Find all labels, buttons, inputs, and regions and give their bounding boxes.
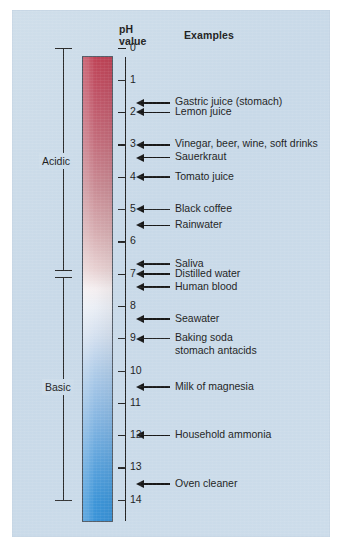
example-row: Black coffee <box>136 202 232 215</box>
example-row: Human blood <box>136 280 237 293</box>
axis-tick-5 <box>118 209 126 210</box>
axis-tick-8 <box>118 306 126 307</box>
basic-bracket-bottom-cap <box>55 500 72 501</box>
example-label: Household ammonia <box>175 428 271 441</box>
axis-tick-11 <box>118 403 126 404</box>
left-arrow-icon <box>136 382 170 393</box>
example-row: Milk of magnesia <box>136 380 254 393</box>
axis-tick-label-7: 7 <box>130 268 136 279</box>
axis-tick-6 <box>118 241 126 242</box>
axis-tick-label-6: 6 <box>130 235 136 246</box>
example-label: Seawater <box>175 312 219 325</box>
example-row: Household ammonia <box>136 428 271 441</box>
axis-tick-label-9: 9 <box>130 332 136 343</box>
left-arrow-icon <box>136 139 170 150</box>
left-arrow-icon <box>136 333 170 344</box>
figure-panel: pH value Examples 01234567891011121314 A… <box>12 10 330 537</box>
example-row: Distilled water <box>136 267 240 280</box>
axis-tick-9 <box>118 338 126 339</box>
axis-tick-13 <box>118 467 126 468</box>
example-label: Rainwater <box>175 218 222 231</box>
axis-tick-label-14: 14 <box>130 494 142 505</box>
left-arrow-icon <box>136 314 170 325</box>
axis-tick-1 <box>118 80 126 81</box>
ph-gradient-bar <box>82 56 113 522</box>
example-label: Black coffee <box>175 202 232 215</box>
left-arrow-icon <box>136 172 170 183</box>
axis-tick-3 <box>118 144 126 145</box>
axis-tick-label-13: 13 <box>130 461 142 472</box>
example-label: Oven cleaner <box>175 477 237 490</box>
left-arrow-icon <box>136 204 170 215</box>
examples-header: Examples <box>184 29 234 41</box>
axis-tick-2 <box>118 112 126 113</box>
acidic-label: Acidic <box>39 153 73 169</box>
bracket-mid-cap-1 <box>55 270 72 271</box>
example-label: Sauerkraut <box>175 150 226 163</box>
example-label: Lemon juice <box>175 105 232 118</box>
acidic-bracket-top-cap <box>55 48 72 49</box>
axis-tick-label-0: 0 <box>130 42 136 53</box>
axis-tick-label-5: 5 <box>130 203 136 214</box>
left-arrow-icon <box>136 152 170 163</box>
axis-tick-label-2: 2 <box>130 106 136 117</box>
ph-axis-line <box>125 57 126 521</box>
example-row: Baking soda stomach antacids <box>136 331 257 356</box>
left-arrow-icon <box>136 107 170 118</box>
axis-tick-7 <box>118 274 126 275</box>
example-row: Sauerkraut <box>136 150 226 163</box>
example-label: Human blood <box>175 280 237 293</box>
basic-label: Basic <box>42 379 74 395</box>
axis-tick-10 <box>118 371 126 372</box>
left-arrow-icon <box>136 430 170 441</box>
example-row: Seawater <box>136 312 219 325</box>
axis-tick-4 <box>118 177 126 178</box>
example-label: Milk of magnesia <box>175 380 254 393</box>
example-row: Rainwater <box>136 218 222 231</box>
axis-tick-14 <box>118 500 126 501</box>
axis-tick-label-1: 1 <box>130 74 136 85</box>
example-row: Vinegar, beer, wine, soft drinks <box>136 137 318 150</box>
example-label: Tomato juice <box>175 170 234 183</box>
example-label: Distilled water <box>175 267 240 280</box>
bar-gloss-overlay <box>83 57 112 521</box>
example-label: Baking soda stomach antacids <box>175 331 257 356</box>
example-row: Tomato juice <box>136 170 234 183</box>
example-row: Lemon juice <box>136 105 232 118</box>
left-arrow-icon <box>136 220 170 231</box>
example-row: Oven cleaner <box>136 477 237 490</box>
axis-tick-label-10: 10 <box>130 365 142 376</box>
left-arrow-icon <box>136 282 170 293</box>
axis-tick-0 <box>118 48 126 49</box>
left-arrow-icon <box>136 479 170 490</box>
axis-tick-label-3: 3 <box>130 138 136 149</box>
bracket-mid-cap-2 <box>55 277 72 278</box>
example-label: Vinegar, beer, wine, soft drinks <box>175 137 318 150</box>
axis-tick-label-4: 4 <box>130 171 136 182</box>
axis-tick-12 <box>118 435 126 436</box>
axis-tick-label-8: 8 <box>130 300 136 311</box>
left-arrow-icon <box>136 269 170 280</box>
axis-tick-label-11: 11 <box>130 397 141 408</box>
